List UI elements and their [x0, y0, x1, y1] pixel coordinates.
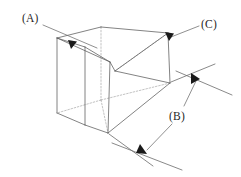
leader-line-b-lower [147, 124, 172, 150]
callout-label-b: (B) [169, 110, 185, 123]
dimension-axis-lower [112, 143, 182, 170]
callout-label-a: (A) [22, 12, 39, 25]
arrow-head-b-lower [136, 144, 147, 154]
leader-line-b-upper [184, 81, 196, 106]
leader-line-c [171, 26, 199, 37]
dimension-axis-upper [176, 71, 232, 95]
left-front-face-fill [57, 38, 85, 125]
wedge-solid-drawing: (A) (B) (C) [0, 0, 241, 177]
technical-drawing-figure: (A) (B) (C) [0, 0, 241, 177]
callout-label-c: (C) [201, 18, 217, 31]
